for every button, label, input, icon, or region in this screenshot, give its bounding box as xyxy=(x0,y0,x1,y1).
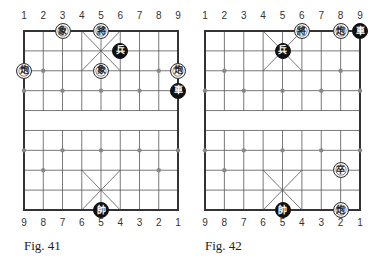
figure-caption: Fig. 42 xyxy=(205,238,242,254)
bottom-file-label: 9 xyxy=(199,217,211,228)
bottom-file-label: 1 xyxy=(354,217,366,228)
bottom-file-label: 8 xyxy=(218,217,230,228)
top-file-label: 1 xyxy=(199,10,211,21)
black-piece: 兵 xyxy=(275,43,291,59)
black-piece: 車 xyxy=(352,23,368,39)
white-piece: 炮 xyxy=(333,23,349,39)
bottom-file-label: 4 xyxy=(296,217,308,228)
top-file-label: 6 xyxy=(296,10,308,21)
black-piece: 帥 xyxy=(275,202,291,218)
board-fig-42: 123456789987654321將炮車兵卒炮帥Fig. 42 xyxy=(0,0,386,264)
board-grid xyxy=(0,0,386,264)
top-file-label: 7 xyxy=(315,10,327,21)
bottom-file-label: 3 xyxy=(315,217,327,228)
top-file-label: 4 xyxy=(257,10,269,21)
bottom-file-label: 5 xyxy=(277,217,289,228)
white-piece: 將 xyxy=(294,23,310,39)
top-file-label: 9 xyxy=(354,10,366,21)
top-file-label: 3 xyxy=(238,10,250,21)
bottom-file-label: 2 xyxy=(335,217,347,228)
bottom-file-label: 6 xyxy=(257,217,269,228)
white-piece: 卒 xyxy=(333,162,349,178)
top-file-label: 5 xyxy=(277,10,289,21)
top-file-label: 2 xyxy=(218,10,230,21)
top-file-label: 8 xyxy=(335,10,347,21)
bottom-file-label: 7 xyxy=(238,217,250,228)
white-piece: 炮 xyxy=(333,202,349,218)
